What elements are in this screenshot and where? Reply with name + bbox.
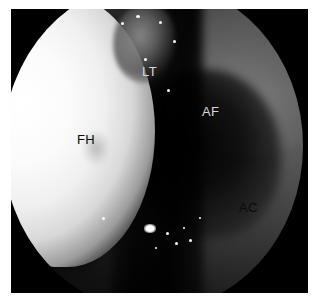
specular-highlight: [121, 22, 124, 25]
anatomy-label-acetabular-cartilage: AC: [239, 201, 258, 214]
specular-highlight: [155, 247, 157, 249]
specular-highlight: [173, 40, 176, 43]
specular-highlight: [144, 224, 156, 233]
specular-highlight: [175, 242, 178, 245]
specular-highlight: [102, 217, 105, 220]
arthroscopy-figure: FH LT AF AC: [0, 0, 325, 301]
specular-highlight: [166, 232, 169, 235]
specular-highlight: [189, 239, 192, 242]
specular-highlight: [144, 58, 147, 61]
scope-field-of-view: [11, 9, 303, 293]
specular-highlight: [199, 217, 201, 219]
specular-highlight: [159, 21, 162, 24]
anatomy-label-acetabular-fossa: AF: [202, 105, 219, 118]
anatomy-label-femoral-head: FH: [77, 133, 95, 146]
specular-highlight: [136, 15, 140, 18]
specular-highlight: [183, 227, 185, 229]
scope-frame: FH LT AF AC: [11, 9, 308, 293]
specular-highlight: [167, 89, 170, 92]
anatomy-label-ligamentum-teres: LT: [142, 65, 157, 78]
